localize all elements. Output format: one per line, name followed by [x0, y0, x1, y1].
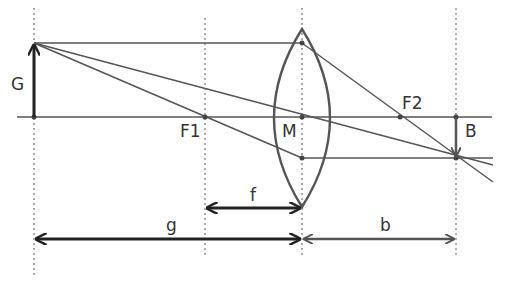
- label-b: b: [380, 215, 391, 235]
- lens-top-point: [300, 41, 305, 46]
- focal-ray: [34, 43, 302, 158]
- f1-point: [203, 115, 208, 120]
- label-m: M: [282, 121, 297, 141]
- label-g-object: G: [11, 74, 24, 94]
- label-f2: F2: [402, 93, 423, 113]
- guide-lines: [34, 8, 456, 275]
- image-tip-point: [454, 156, 459, 161]
- lens-bottom-point: [300, 156, 305, 161]
- label-f1: F1: [180, 121, 201, 141]
- rays: [34, 43, 493, 182]
- lens-diagram: G F1 M F2 B f g b: [0, 0, 507, 281]
- label-g: g: [166, 215, 177, 235]
- central-ray: [34, 43, 493, 165]
- points: [32, 41, 459, 161]
- label-f: f: [250, 185, 257, 205]
- f2-point: [398, 115, 403, 120]
- m-point: [300, 115, 305, 120]
- label-b-image: B: [465, 121, 477, 141]
